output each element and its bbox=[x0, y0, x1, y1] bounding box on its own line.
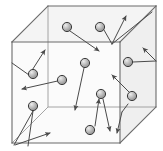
particle-top-right-inner bbox=[95, 22, 104, 31]
diagram-canvas bbox=[0, 0, 163, 151]
particle-center-upper bbox=[80, 58, 89, 67]
particle-mid-left bbox=[57, 75, 66, 84]
particle-bottom-center bbox=[85, 125, 94, 134]
gas-particle-diagram bbox=[0, 0, 163, 151]
particle-right-lower bbox=[127, 91, 136, 100]
particle-right-upper bbox=[123, 57, 132, 66]
particle-top-left-inner bbox=[62, 22, 71, 31]
particle-left-lower bbox=[28, 101, 37, 110]
particle-center-lower bbox=[96, 89, 105, 98]
particle-left-upper bbox=[28, 69, 37, 78]
